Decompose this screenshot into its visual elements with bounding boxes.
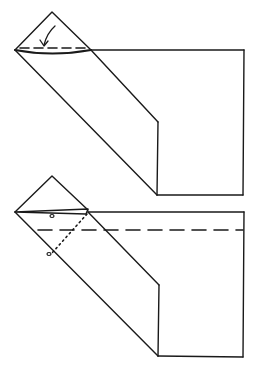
step-1-figure [15, 12, 244, 195]
right-edge [243, 212, 244, 357]
reference-dot-icon [47, 253, 51, 256]
left-diagonal-edge [15, 212, 158, 356]
dotted-guide-line [52, 214, 87, 253]
right-edge [243, 50, 244, 195]
right-diagonal-edge [88, 212, 159, 285]
inner-vertical-edge [158, 285, 159, 356]
flap-triangle [15, 176, 88, 212]
fold-arrow-icon [40, 26, 55, 46]
bottom-edge [158, 356, 243, 357]
right-diagonal-edge [91, 50, 158, 122]
inner-vertical-edge [157, 122, 158, 195]
origami-diagram [0, 0, 262, 375]
reference-dot-icon [50, 215, 54, 218]
diagram-svg [0, 0, 262, 375]
step-2-figure [15, 176, 244, 357]
flap-folded-edge [15, 50, 91, 54]
left-diagonal-edge [15, 50, 157, 195]
flap-triangle [15, 12, 91, 50]
flap-folded-edge [15, 209, 88, 214]
